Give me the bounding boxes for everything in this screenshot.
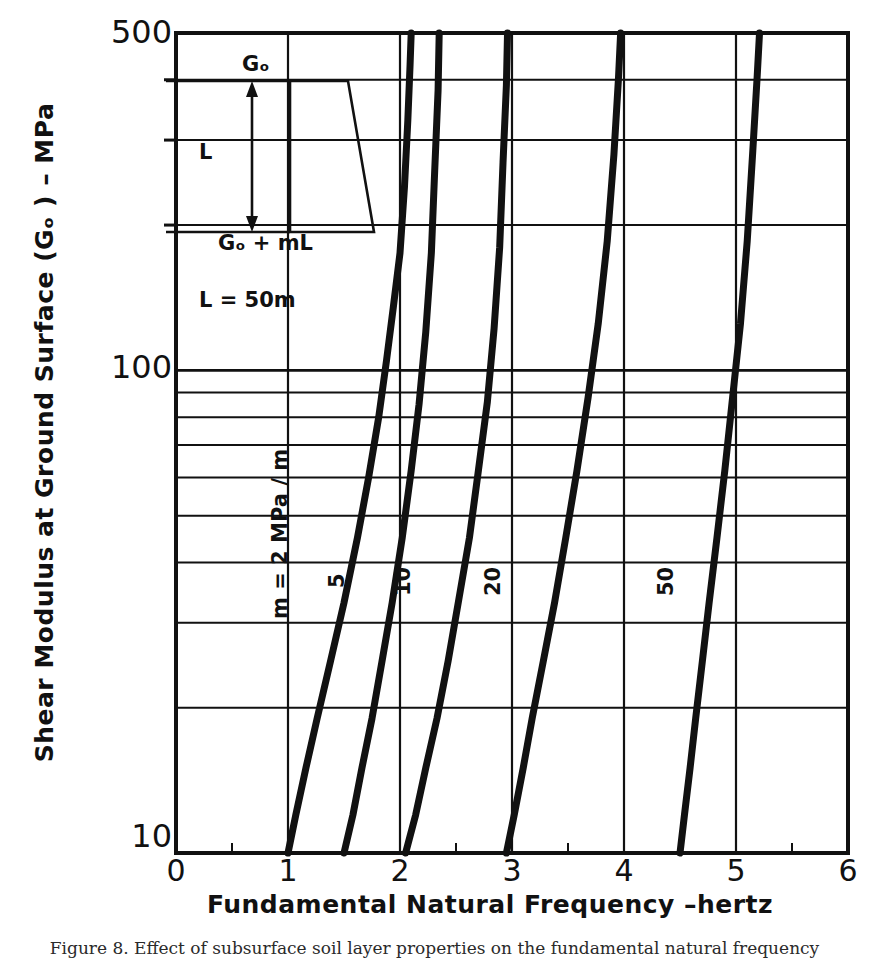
curve-label-m20: 20 <box>481 567 505 596</box>
curve-label-m2: m = 2 MPa / m <box>268 449 292 619</box>
plot-area <box>0 0 869 962</box>
gridlines <box>176 33 848 853</box>
figure-container: Shear Modulus at Ground Surface (Gₒ ) – … <box>0 0 869 962</box>
inset-soil-profile-diagram <box>166 81 374 232</box>
inset-bottom-label: Gₒ + mL <box>218 231 313 255</box>
inset-note-label: L = 50m <box>199 288 296 312</box>
inset-side-label: L <box>199 140 212 164</box>
data-curves <box>288 33 760 853</box>
inset-top-label: Gₒ <box>242 52 269 76</box>
curve-label-m5: 5 <box>325 573 349 588</box>
curve-label-m10: 10 <box>391 567 415 596</box>
figure-caption: Figure 8. Effect of subsurface soil laye… <box>0 938 869 958</box>
curve-label-m50: 50 <box>654 567 678 596</box>
